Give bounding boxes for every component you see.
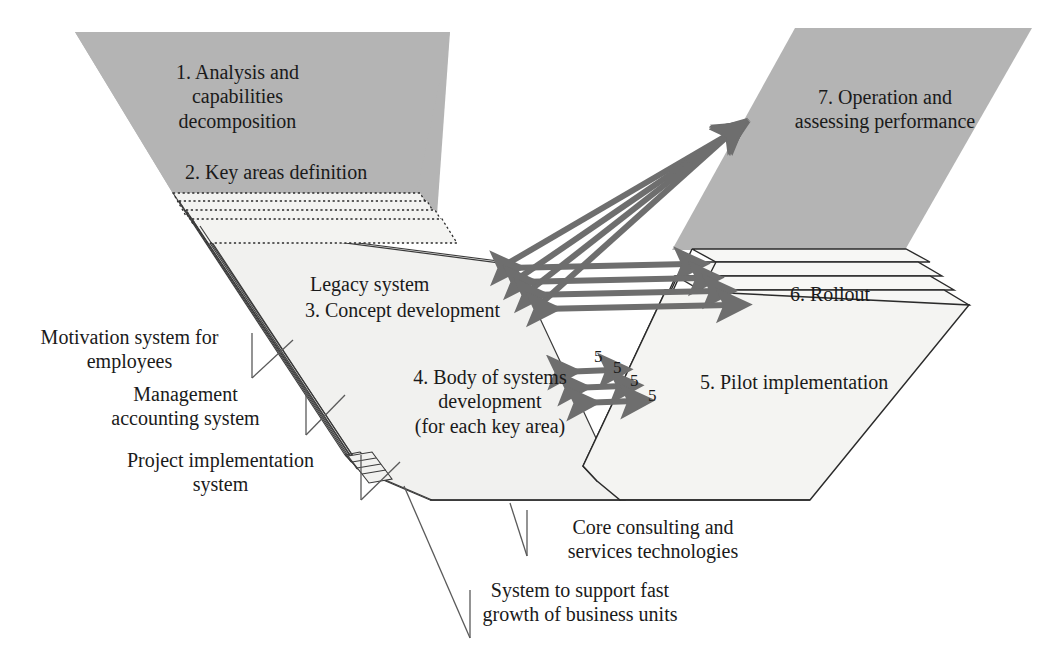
- bottom-callout-leaders: [404, 486, 527, 638]
- pilot-layer-marker-4: 5: [648, 386, 657, 406]
- panel-left-gray: [75, 32, 450, 215]
- panel-rollout-pilot: [583, 290, 969, 500]
- v-model-diagram-svg: [0, 0, 1061, 671]
- pilot-layer-marker-3: 5: [630, 371, 639, 391]
- pilot-layer-marker-1: 5: [594, 347, 603, 367]
- pilot-layer-marker-2: 5: [613, 358, 622, 378]
- diagram-canvas: 1. Analysis and capabilities decompositi…: [0, 0, 1061, 671]
- dotted-layer-stack: [163, 192, 457, 243]
